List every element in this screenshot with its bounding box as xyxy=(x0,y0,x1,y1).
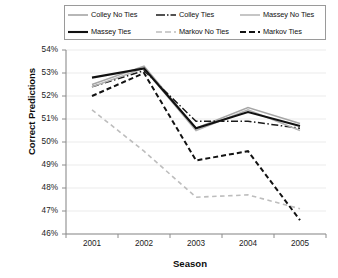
series-line-colley-ties xyxy=(92,71,300,129)
y-tick-label: 54% xyxy=(28,45,58,54)
data-series-group xyxy=(92,66,300,220)
x-tick-label: 2003 xyxy=(176,239,216,248)
series-line-markov-no-ties xyxy=(92,110,300,209)
line-chart-figure: Colley No Ties Colley Ties Massey No Tie… xyxy=(0,0,338,278)
y-tick-label: 50% xyxy=(28,137,58,146)
x-tick-label: 2001 xyxy=(72,239,112,248)
y-tick-label: 51% xyxy=(28,114,58,123)
y-tick-label: 46% xyxy=(28,229,58,238)
x-tick-label: 2005 xyxy=(280,239,320,248)
x-tick-label: 2002 xyxy=(124,239,164,248)
y-tick-label: 52% xyxy=(28,91,58,100)
y-tick-label: 49% xyxy=(28,160,58,169)
y-tick-label: 47% xyxy=(28,206,58,215)
y-tick-label: 48% xyxy=(28,183,58,192)
x-axis-title: Season xyxy=(55,258,325,269)
axis-ticks xyxy=(62,50,326,238)
x-tick-label: 2004 xyxy=(228,239,268,248)
series-line-markov-ties xyxy=(92,73,300,220)
y-tick-label: 53% xyxy=(28,68,58,77)
gridlines xyxy=(66,50,326,234)
